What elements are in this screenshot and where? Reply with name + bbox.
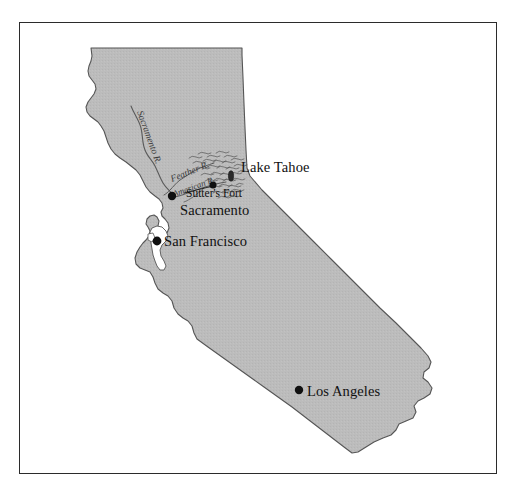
city-label-sacramento: Sacramento	[180, 202, 249, 218]
city-label-san-francisco: San Francisco	[164, 233, 247, 249]
city-label-lake-tahoe: Lake Tahoe	[241, 159, 310, 175]
city-label-sutters-fort: Sutter's Fort	[186, 187, 243, 199]
san-francisco-marker	[153, 237, 162, 246]
california-reference-map: Sacramento R. Feather R. American R. Lak…	[0, 0, 516, 491]
los-angeles-marker	[295, 386, 303, 394]
sacramento-marker	[168, 192, 176, 200]
lake-tahoe-marker	[228, 171, 233, 181]
map-canvas: Sacramento R. Feather R. American R. Lak…	[0, 0, 516, 491]
city-label-los-angeles: Los Angeles	[307, 383, 380, 399]
